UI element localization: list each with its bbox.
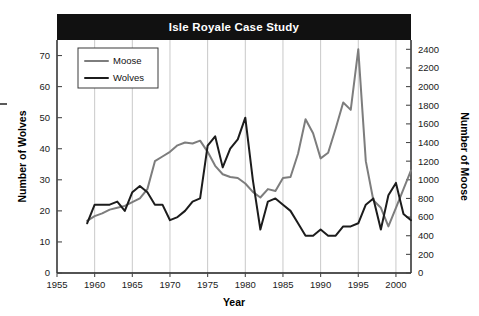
y-axis-left-tick-label: 10 — [39, 236, 50, 247]
x-axis-tick-label: 1970 — [159, 279, 180, 290]
x-axis-tick-label: 1960 — [84, 279, 105, 290]
y-axis-right-tick-label: 1400 — [418, 137, 439, 148]
y-axis-left-tick-label: 60 — [39, 81, 50, 92]
x-axis-tick-label: 1965 — [122, 279, 143, 290]
x-axis-tick-label: 1985 — [272, 279, 293, 290]
series-line-wolves — [87, 118, 411, 236]
y-axis-left-tick-label: 40 — [39, 143, 50, 154]
x-axis-tick-label: 1980 — [235, 279, 256, 290]
y-axis-right-tick-label: 400 — [418, 230, 434, 241]
y-axis-right-tick-label: 1200 — [418, 156, 439, 167]
x-axis-tick-label: 1975 — [197, 279, 218, 290]
x-axis-title: Year — [223, 296, 245, 308]
x-axis-tick-label: 2000 — [385, 279, 406, 290]
y-axis-right-tick-label: 0 — [418, 267, 423, 278]
x-axis-tick-label: 1990 — [310, 279, 331, 290]
y-axis-left-tick-label: 0 — [45, 267, 50, 278]
y-axis-right-tick-label: 2400 — [418, 44, 439, 55]
y-axis-right-tick-label: 200 — [418, 249, 434, 260]
y-axis-right-tick-label: 2200 — [418, 62, 439, 73]
chart-canvas: 0102030405060700200400600800100012001400… — [0, 0, 479, 316]
legend-label-wolves: Wolves — [113, 72, 144, 83]
y-axis-right-tick-label: 1600 — [418, 118, 439, 129]
x-axis-tick-label: 1995 — [348, 279, 369, 290]
legend-label-moose: Moose — [113, 55, 142, 66]
x-axis-tick-label: 1955 — [46, 279, 67, 290]
y-axis-right-tick-label: 1800 — [418, 100, 439, 111]
y-axis-right-title: Number of Moose — [459, 112, 471, 201]
y-axis-right-tick-label: 800 — [418, 193, 434, 204]
y-axis-left-tick-label: 30 — [39, 174, 50, 185]
y-axis-left-tick-label: 70 — [39, 50, 50, 61]
chart-figure: Isle Royale Case Study 01020304050607002… — [0, 0, 479, 316]
y-axis-right-tick-label: 2000 — [418, 81, 439, 92]
y-axis-left-tick-label: 50 — [39, 112, 50, 123]
y-axis-left-tick-label: 20 — [39, 205, 50, 216]
y-axis-right-tick-label: 600 — [418, 211, 434, 222]
y-axis-left-title: Number of Wolves — [16, 110, 28, 202]
y-axis-right-tick-label: 1000 — [418, 174, 439, 185]
